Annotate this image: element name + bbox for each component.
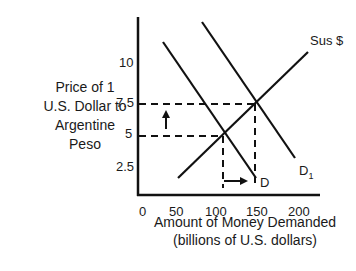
d1-label: D1 — [299, 163, 313, 181]
x-axis-title: Amount of Money Demanded (billions of U.… — [140, 213, 350, 249]
y-tick: 5 — [125, 126, 132, 141]
y-tick: 2.5 — [116, 159, 134, 174]
right-arrow-icon — [224, 177, 248, 185]
y-tick: 7.5 — [116, 95, 134, 110]
d-label: D — [260, 175, 269, 190]
y-tick: 10 — [119, 55, 133, 70]
up-arrow-icon — [162, 110, 170, 129]
x-title-line: Amount of Money Demanded — [140, 213, 350, 231]
y-title-line: Argentine — [30, 116, 140, 135]
x-title-line: (billions of U.S. dollars) — [140, 231, 350, 249]
y-axis-title: Price of 1 U.S. Dollar to Argentine Peso — [30, 78, 140, 154]
demand-curve-d — [163, 42, 256, 178]
y-title-line: Peso — [30, 135, 140, 154]
d1-label-sub: 1 — [308, 171, 313, 181]
dashed-guides — [139, 104, 255, 188]
demand-curve-d1 — [202, 22, 295, 158]
d1-label-main: D — [299, 163, 308, 178]
supply-label: Sus $ — [310, 33, 343, 48]
